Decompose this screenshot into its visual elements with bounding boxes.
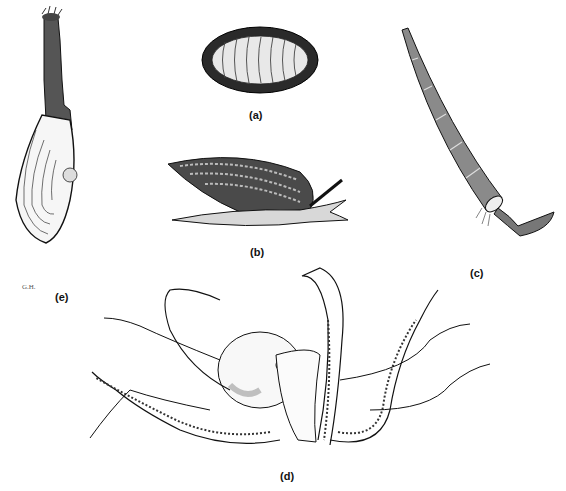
panel-c-tusk-shell: (c)	[390, 20, 566, 290]
clam-illustration	[0, 0, 120, 260]
snail-illustration	[150, 150, 360, 240]
tusk-shell-illustration	[390, 20, 566, 240]
artist-signature: G.H.	[22, 283, 36, 291]
panel-b-snail: (b)	[150, 150, 360, 260]
panel-label-e: (e)	[55, 291, 68, 303]
panel-e-clam: G.H. (e)	[0, 0, 120, 300]
octopus-illustration	[80, 260, 500, 460]
panel-d-octopus: (d)	[80, 260, 500, 491]
panel-a-chiton: (a)	[180, 0, 340, 130]
chiton-illustration	[180, 0, 340, 110]
panel-label-a: (a)	[249, 109, 262, 121]
panel-label-d: (d)	[280, 470, 294, 482]
panel-label-b: (b)	[250, 246, 264, 258]
